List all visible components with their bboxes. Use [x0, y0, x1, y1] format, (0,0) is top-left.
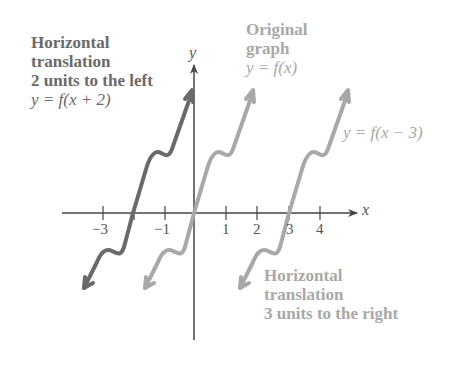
label-line: Horizontal — [264, 266, 398, 285]
x-tick-label: 1 — [222, 221, 230, 238]
label-shift-left: Horizontal translation 2 units to the le… — [31, 33, 153, 109]
curve-shifted-right — [240, 90, 349, 288]
label-line: Original — [246, 20, 307, 39]
label-line: translation — [31, 52, 153, 71]
label-line: 3 units to the right — [264, 304, 398, 323]
label-original: Original graph y = f(x) — [246, 20, 307, 77]
label-line: Horizontal — [31, 33, 153, 52]
x-tick-label: 4 — [316, 221, 324, 238]
x-tick-label: −1 — [154, 221, 170, 238]
label-line: translation — [264, 285, 398, 304]
x-tick-label: 2 — [253, 221, 261, 238]
label-shift-right: Horizontal translation 3 units to the ri… — [264, 266, 398, 323]
curve-shifted-left — [84, 90, 193, 288]
label-line: 2 units to the left — [31, 71, 153, 90]
x-tick-label: −3 — [92, 221, 108, 238]
equation-shift-right: y = f(x − 3) — [343, 123, 423, 142]
x-tick-label: 3 — [286, 221, 294, 238]
y-axis-label: y — [189, 44, 196, 62]
curve-original — [145, 90, 254, 288]
label-shift-right-equation: y = f(x − 3) — [343, 123, 423, 142]
equation-original: y = f(x) — [246, 58, 307, 77]
label-line: graph — [246, 39, 307, 58]
equation-shift-left: y = f(x + 2) — [31, 90, 153, 109]
x-axis-label: x — [362, 201, 369, 219]
